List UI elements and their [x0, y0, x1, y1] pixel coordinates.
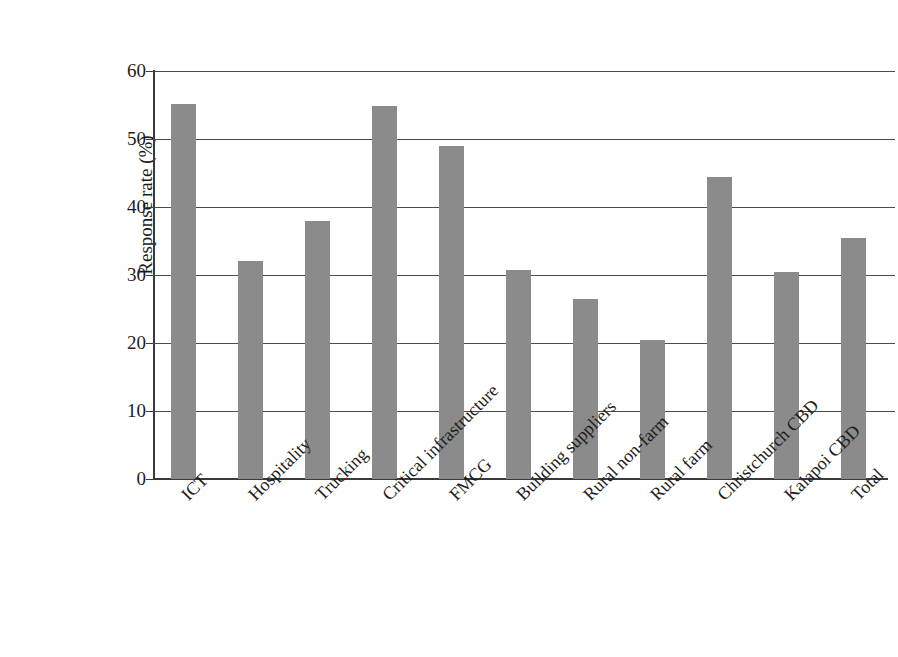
x-label-critical-infrastructure: Critical infrastructure — [379, 381, 502, 504]
x-label-fmcg: FMCG — [446, 455, 495, 504]
y-tick-20 — [146, 343, 153, 344]
x-label-trucking: Trucking — [312, 445, 371, 504]
x-label-rural-farm: Rural farm — [647, 436, 715, 504]
x-axis-category-labels: ICTHospitalityTruckingCritical infrastru… — [40, 16, 898, 657]
response-rate-bar-chart: Response rate (%) 0102030405060 ICTHospi… — [40, 16, 858, 641]
y-tick-0 — [146, 479, 153, 480]
y-tick-50 — [146, 139, 153, 140]
x-label-total: Total — [848, 465, 887, 504]
y-tick-30 — [146, 275, 153, 276]
y-tick-60 — [146, 71, 153, 72]
y-tick-40 — [146, 207, 153, 208]
x-label-hospitality: Hospitality — [245, 434, 314, 503]
x-label-ict: ICT — [178, 470, 211, 503]
y-tick-10 — [146, 411, 153, 412]
